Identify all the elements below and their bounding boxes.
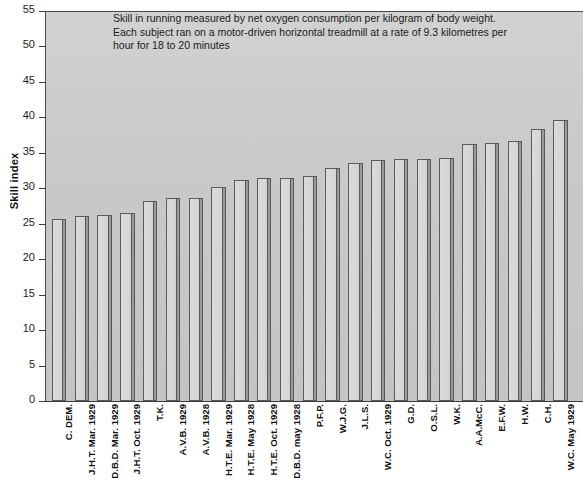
bar (439, 158, 453, 401)
bar-side-shadow (313, 176, 317, 401)
bar-side-shadow (381, 160, 385, 401)
bar-side-shadow (245, 180, 249, 401)
y-tick-label: 20 (1, 251, 35, 263)
x-axis-label: H.W. (519, 404, 530, 425)
x-axis-label: A.A.McC. (473, 404, 484, 446)
x-axis-label: H.T.E. Oct. 1929 (268, 404, 279, 475)
bar-side-shadow (153, 201, 157, 401)
x-axis-labels: C. DEM.J.H.T. Mar. 1929D.B.D. Mar. 1929J… (45, 404, 583, 502)
bar (325, 168, 339, 401)
bar (280, 178, 294, 401)
x-axis-label: D.B.D. may 1928 (291, 404, 302, 479)
x-axis-label: P.F.P. (314, 404, 325, 427)
bar (234, 180, 248, 401)
bar (97, 215, 111, 401)
y-tick-label: 0 (1, 393, 35, 405)
y-tick-label: 40 (1, 109, 35, 121)
bar (371, 160, 385, 401)
bar-side-shadow (85, 216, 89, 401)
y-tick-label: 30 (1, 180, 35, 192)
bar (531, 129, 545, 401)
bar-side-shadow (541, 129, 545, 401)
bar (303, 176, 317, 401)
x-axis-label: A.V.B. 1929 (177, 404, 188, 455)
bar (120, 213, 134, 401)
bar-side-shadow (427, 159, 431, 402)
y-tick-label: 5 (1, 358, 35, 370)
x-axis-line (45, 401, 583, 402)
bar-side-shadow (495, 143, 499, 401)
y-tick-label: 15 (1, 287, 35, 299)
bar (75, 216, 89, 401)
x-axis-label: J.L.S. (359, 404, 370, 430)
y-tick-label: 55 (1, 3, 35, 15)
x-axis-label: C. DEM. (63, 404, 74, 440)
bar (508, 141, 522, 401)
bar (52, 219, 66, 401)
bar (394, 159, 408, 401)
x-axis-label: T.K. (154, 404, 165, 421)
bar-side-shadow (108, 215, 112, 401)
x-axis-label: W.C. Oct. 1929 (382, 404, 393, 470)
x-axis-label: H.T.E. May 1928 (245, 404, 256, 475)
bar-side-shadow (131, 213, 135, 401)
x-axis-label: J.H.T. Oct. 1929 (131, 404, 142, 474)
bar-side-shadow (564, 120, 568, 402)
bar-side-shadow (450, 158, 454, 401)
bar (553, 120, 567, 402)
x-axis-label: W.C. May 1929 (565, 404, 576, 470)
bar-side-shadow (518, 141, 522, 401)
bar-side-shadow (404, 159, 408, 401)
x-axis-label: O.S.L. (428, 404, 439, 432)
x-axis-label: H.T.E. Mar. 1929 (223, 404, 234, 476)
bar-series (45, 11, 583, 401)
y-tick-label: 45 (1, 74, 35, 86)
x-axis-label: A.V.B. 1928 (200, 404, 211, 455)
bar-side-shadow (62, 219, 66, 401)
bar-side-shadow (473, 144, 477, 401)
bar (348, 163, 362, 401)
y-tick-label: 25 (1, 216, 35, 228)
y-tick-label: 50 (1, 38, 35, 50)
x-axis-label: C.H. (542, 404, 553, 423)
bar-side-shadow (267, 178, 271, 401)
x-axis-label: J.H.T. Mar. 1929 (86, 404, 97, 475)
bar (485, 143, 499, 401)
y-tick-label: 35 (1, 145, 35, 157)
bar-side-shadow (176, 198, 180, 401)
bar-side-shadow (199, 198, 203, 402)
x-axis-label: E.F.W. (496, 404, 507, 432)
bar (189, 198, 203, 402)
bar (462, 144, 476, 401)
bar (417, 159, 431, 402)
x-axis-label: W.K. (451, 404, 462, 425)
bar (211, 187, 225, 401)
bar (143, 201, 157, 401)
x-axis-label: G.D. (405, 404, 416, 424)
bar-side-shadow (222, 187, 226, 401)
bar-side-shadow (359, 163, 363, 401)
bar (257, 178, 271, 401)
x-axis-label: W.J.G. (337, 404, 348, 433)
bar-side-shadow (290, 178, 294, 401)
bar-chart: Skill index 0510152025303540455055 Skill… (0, 0, 583, 502)
y-tick-label: 10 (1, 322, 35, 334)
bar (166, 198, 180, 401)
bar-side-shadow (336, 168, 340, 401)
y-tick-mark (39, 401, 46, 402)
x-axis-label: D.B.D. Mar. 1929 (109, 404, 120, 479)
